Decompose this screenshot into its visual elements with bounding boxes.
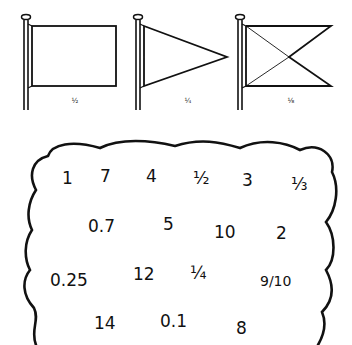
cloud-number: ½ — [193, 168, 209, 188]
number-cloud: 1 7 4 ½ 3 ⅓ 0.7 5 10 2 0.25 12 ¼ 9/10 14… — [0, 130, 352, 345]
cloud-number: 10 — [214, 222, 236, 242]
flag-rectangle-icon — [22, 15, 117, 111]
cloud-number: ⅓ — [291, 174, 307, 194]
cloud-number: 3 — [242, 170, 253, 190]
flag-label-quarter: ¼ — [180, 98, 196, 105]
cloud-number: 0.1 — [160, 311, 187, 331]
flag-label-half: ½ — [67, 98, 83, 105]
flag-pennant-icon — [134, 15, 228, 111]
cloud-number: 4 — [146, 166, 157, 186]
flags-row: ½ ¼ ⅛ — [0, 0, 352, 120]
flag-swallowtail-icon — [236, 15, 332, 111]
flag-illustrations — [0, 0, 352, 120]
cloud-number: 8 — [236, 318, 247, 338]
cloud-number: 9/10 — [260, 273, 291, 289]
cloud-number: 5 — [163, 214, 174, 234]
cloud-number: 2 — [276, 223, 287, 243]
cloud-number: 14 — [94, 313, 116, 333]
cloud-number: 7 — [100, 166, 111, 186]
cloud-number: 0.25 — [50, 270, 88, 290]
cloud-number: 12 — [133, 264, 155, 284]
flag-label-eighth: ⅛ — [283, 98, 299, 105]
cloud-number: 0.7 — [88, 216, 115, 236]
cloud-number: 1 — [62, 168, 73, 188]
cloud-number: ¼ — [190, 263, 206, 283]
